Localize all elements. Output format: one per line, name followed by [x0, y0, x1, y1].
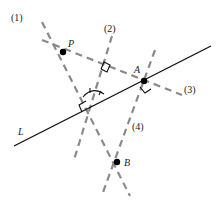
construction-diagram: (1) (2) (3) (4) P A B L	[0, 0, 224, 200]
label-line-3: (3)	[184, 84, 196, 96]
point-B	[114, 159, 120, 165]
label-A: A	[133, 64, 141, 75]
label-L: L	[17, 126, 24, 137]
dashed-line-3	[42, 40, 182, 95]
label-line-1: (1)	[11, 12, 23, 24]
line-L	[14, 46, 211, 146]
label-line-2: (2)	[104, 23, 116, 35]
label-P: P	[67, 38, 74, 49]
label-B: B	[124, 157, 130, 168]
dashed-line-4	[102, 50, 155, 195]
point-A	[141, 78, 147, 84]
point-P	[60, 49, 66, 55]
label-line-4: (4)	[132, 121, 144, 133]
